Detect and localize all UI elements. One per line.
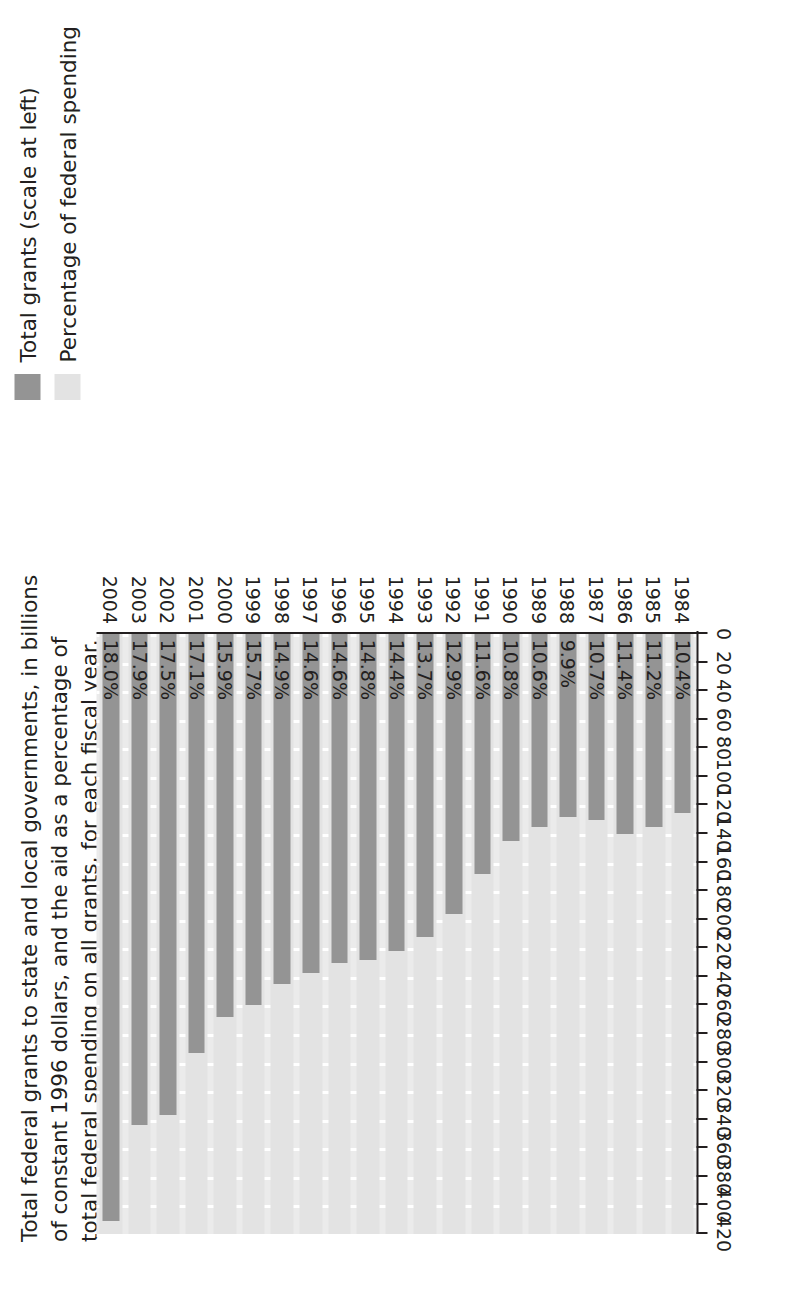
x-axis-tick bbox=[696, 746, 707, 748]
legend-item-percentage: Percentage of federal spending bbox=[54, 26, 80, 400]
year-label: 1999 bbox=[241, 576, 263, 624]
year-label: 1985 bbox=[641, 576, 663, 624]
year-label: 1997 bbox=[298, 576, 320, 624]
year-label: 1986 bbox=[613, 576, 635, 624]
percentage-label: 13.7% bbox=[410, 640, 439, 700]
year-label: 1991 bbox=[470, 576, 492, 624]
grants-bar bbox=[131, 634, 148, 1125]
grants-bar bbox=[159, 634, 176, 1115]
x-axis-tick bbox=[696, 775, 707, 777]
chart-title: Total federal grants to state and local … bbox=[14, 542, 104, 1242]
percentage-label: 10.8% bbox=[496, 640, 525, 700]
year-label: 1988 bbox=[555, 576, 577, 624]
x-axis-tick bbox=[696, 889, 707, 891]
x-axis-tick bbox=[696, 1232, 707, 1234]
x-axis-tick bbox=[696, 832, 707, 834]
percentage-label: 18.0% bbox=[96, 640, 125, 700]
x-axis-tick bbox=[696, 1003, 707, 1005]
x-axis-tick bbox=[696, 1118, 707, 1120]
percentage-label: 12.9% bbox=[439, 640, 468, 700]
year-label: 1998 bbox=[270, 576, 292, 624]
percentage-label: 14.8% bbox=[353, 640, 382, 700]
percentage-label: 14.9% bbox=[267, 640, 296, 700]
chart-title-line-1: Total federal grants to state and local … bbox=[14, 542, 44, 1242]
x-axis-tick bbox=[696, 1061, 707, 1063]
bar-row: 10.4% bbox=[668, 634, 697, 1234]
bar-row: 11.6% bbox=[468, 634, 497, 1234]
percentage-label: 15.9% bbox=[210, 640, 239, 700]
bar-row: 17.5% bbox=[153, 634, 182, 1234]
legend-label-percentage: Percentage of federal spending bbox=[55, 26, 80, 362]
bar-row: 11.2% bbox=[639, 634, 668, 1234]
percentage-label: 17.5% bbox=[153, 640, 182, 700]
percentage-label: 11.4% bbox=[610, 640, 639, 700]
percentage-label: 17.1% bbox=[182, 640, 211, 700]
year-label: 1994 bbox=[384, 576, 406, 624]
chart-legend: Total grants (scale at left) Percentage … bbox=[14, 26, 94, 400]
x-axis-tick bbox=[696, 661, 707, 663]
x-axis-tick bbox=[696, 1032, 707, 1034]
year-label: 1984 bbox=[670, 576, 692, 624]
bar-columns: 18.0%17.9%17.5%17.1%15.9%15.7%14.9%14.6%… bbox=[96, 634, 696, 1234]
x-axis-tick bbox=[696, 632, 707, 634]
legend-label-total-grants: Total grants (scale at left) bbox=[15, 87, 40, 362]
year-label: 1993 bbox=[413, 576, 435, 624]
bar-row: 18.0% bbox=[96, 634, 125, 1234]
bar-row: 17.9% bbox=[125, 634, 154, 1234]
bar-row: 14.6% bbox=[325, 634, 354, 1234]
percentage-label: 9.9% bbox=[553, 640, 582, 688]
percentage-label: 14.6% bbox=[296, 640, 325, 700]
legend-swatch-percentage bbox=[54, 374, 80, 400]
percentage-label: 11.6% bbox=[468, 640, 497, 700]
percentage-label: 15.7% bbox=[239, 640, 268, 700]
rotated-figure-wrapper: Total federal grants to state and local … bbox=[0, 0, 795, 1314]
x-axis bbox=[696, 631, 698, 1234]
percentage-label: 10.6% bbox=[525, 640, 554, 700]
year-label: 1995 bbox=[355, 576, 377, 624]
x-axis-tick bbox=[696, 861, 707, 863]
year-label: 2002 bbox=[155, 576, 177, 624]
bar-row: 14.4% bbox=[382, 634, 411, 1234]
bar-row: 17.1% bbox=[182, 634, 211, 1234]
bar-row: 15.9% bbox=[210, 634, 239, 1234]
year-label: 1996 bbox=[327, 576, 349, 624]
year-label: 2004 bbox=[98, 576, 120, 624]
x-axis-tick bbox=[696, 718, 707, 720]
bar-row: 14.9% bbox=[267, 634, 296, 1234]
x-axis-tick-label: 0 bbox=[712, 612, 734, 656]
percentage-label: 10.4% bbox=[668, 640, 697, 700]
percentage-label: 10.7% bbox=[582, 640, 611, 700]
x-axis-tick bbox=[696, 689, 707, 691]
percentage-label: 14.4% bbox=[382, 640, 411, 700]
year-label: 2003 bbox=[127, 576, 149, 624]
x-axis-tick bbox=[696, 803, 707, 805]
legend-swatch-total-grants bbox=[14, 374, 40, 400]
bar-row: 14.6% bbox=[296, 634, 325, 1234]
bar-row: 11.4% bbox=[610, 634, 639, 1234]
x-axis-tick bbox=[696, 918, 707, 920]
x-axis-tick bbox=[696, 1146, 707, 1148]
gridline bbox=[96, 1234, 696, 1237]
bar-row: 10.8% bbox=[496, 634, 525, 1234]
year-label: 1990 bbox=[498, 576, 520, 624]
x-axis-tick bbox=[696, 1203, 707, 1205]
year-label: 2000 bbox=[213, 576, 235, 624]
bar-row: 9.9% bbox=[553, 634, 582, 1234]
x-axis-tick bbox=[696, 1089, 707, 1091]
bar-row: 10.6% bbox=[525, 634, 554, 1234]
bar-row: 13.7% bbox=[410, 634, 439, 1234]
percentage-label: 11.2% bbox=[639, 640, 668, 700]
x-axis-tick bbox=[696, 975, 707, 977]
percentage-label: 17.9% bbox=[125, 640, 154, 700]
plot-area: 18.0%17.9%17.5%17.1%15.9%15.7%14.9%14.6%… bbox=[96, 634, 696, 1234]
year-label: 1989 bbox=[527, 576, 549, 624]
chart-title-line-2: of constant 1996 dollars, and the aid as… bbox=[44, 542, 74, 1242]
bar-row: 10.7% bbox=[582, 634, 611, 1234]
year-label: 1992 bbox=[441, 576, 463, 624]
chart-figure: Total federal grants to state and local … bbox=[0, 0, 795, 1314]
y-axis bbox=[96, 632, 699, 634]
legend-item-total-grants: Total grants (scale at left) bbox=[14, 26, 40, 400]
bar-row: 14.8% bbox=[353, 634, 382, 1234]
x-axis-tick bbox=[696, 1175, 707, 1177]
grants-bar bbox=[102, 634, 119, 1221]
